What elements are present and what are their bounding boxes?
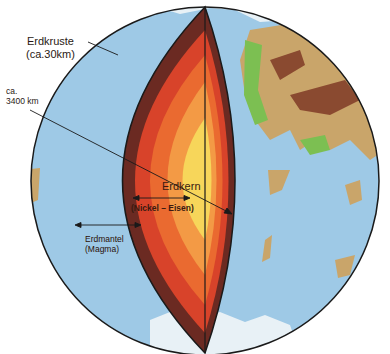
label-mantle: Erdmantel (Magma): [85, 235, 124, 255]
label-mantle-detail: (Magma): [85, 245, 124, 255]
label-core-detail: (Nickel – Eisen): [131, 204, 194, 214]
label-crust: Erdkruste (ca.30km): [26, 35, 75, 60]
label-radius: ca. 3400 km: [6, 87, 39, 107]
label-crust-name: Erdkruste: [26, 35, 75, 48]
label-radius-value: 3400 km: [6, 97, 39, 107]
label-core-name: Erdkern: [162, 180, 201, 193]
label-crust-detail: (ca.30km): [26, 48, 75, 61]
